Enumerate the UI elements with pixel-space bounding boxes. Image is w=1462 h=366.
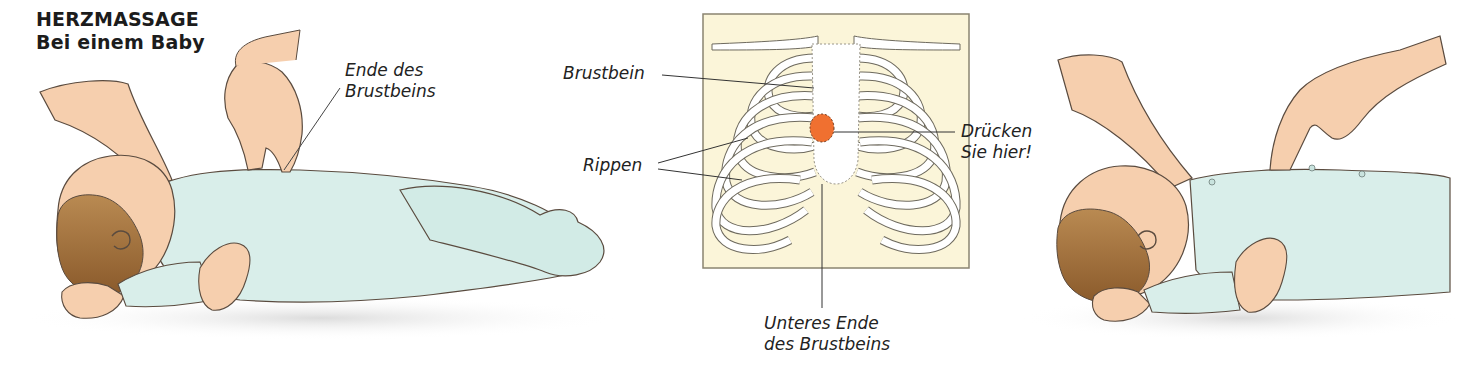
label-unteres-ende: Unteres Ende des Brustbeins	[764, 313, 890, 355]
label-brustbein: Brustbein	[563, 63, 645, 84]
pressing-hand	[225, 62, 303, 172]
lower-end-line2: des Brustbeins	[764, 334, 890, 355]
press-here-line1: Drücken	[961, 121, 1032, 142]
label-rippen: Rippen	[583, 155, 642, 176]
sternum	[812, 44, 860, 184]
left-baby-illustration	[20, 30, 620, 340]
callout-line2: Brustbeins	[345, 81, 436, 102]
callout-line1: Ende des	[345, 60, 436, 81]
pressing-forearm	[235, 30, 300, 66]
press-here-line2: Sie hier!	[961, 142, 1032, 163]
illustration-canvas	[0, 0, 1462, 366]
right-baby-illustration	[1020, 36, 1460, 340]
ribcage-diagram	[658, 14, 969, 308]
lower-end-line1: Unteres Ende	[764, 313, 890, 334]
label-druecken-sie-hier: Drücken Sie hier!	[961, 121, 1032, 163]
pressing-hand	[1270, 36, 1446, 170]
press-point	[810, 114, 834, 142]
callout-ende-des-brustbeins: Ende des Brustbeins	[345, 60, 436, 102]
